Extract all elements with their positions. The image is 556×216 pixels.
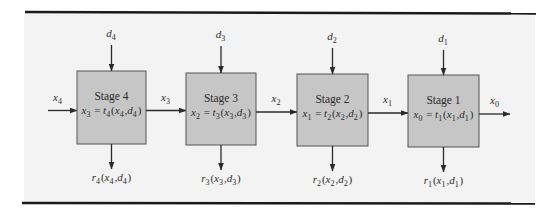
stage-4-group: Stage 4x3 = t4 (x4 ,d4 )	[77, 71, 146, 144]
multistage-diagram: x4 Stage 4x3 = t4 (x4 ,d4 )d4 r4 (x4 ,d4…	[0, 0, 556, 216]
stage-3-group: Stage 3x2 = t3 (x3 ,d3 )	[186, 73, 256, 145]
stage-1-group: Stage 1x0 = t1 (x1 ,d1 )	[408, 75, 479, 147]
stage-3-title: Stage 3	[204, 92, 238, 105]
top-rule	[25, 12, 536, 14]
stage-1-title: Stage 1	[426, 94, 460, 107]
bottom-rule	[22, 203, 535, 204]
stage-2-group: Stage 2x1 = t2 (x2 ,d2 )	[297, 74, 368, 146]
stage-4-title: Stage 4	[94, 90, 128, 103]
stage-2-title: Stage 2	[315, 93, 349, 106]
